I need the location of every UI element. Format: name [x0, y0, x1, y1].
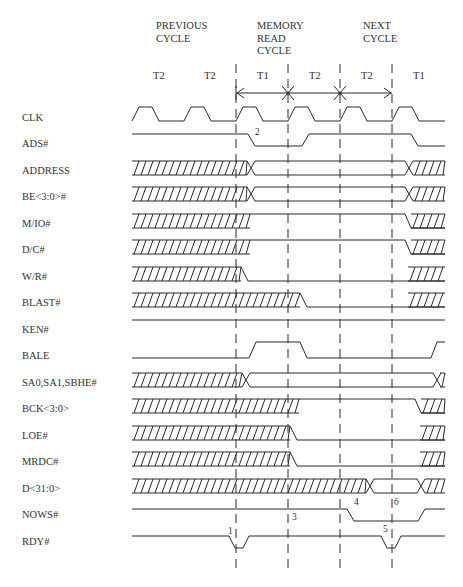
timing-diagram	[0, 0, 463, 587]
